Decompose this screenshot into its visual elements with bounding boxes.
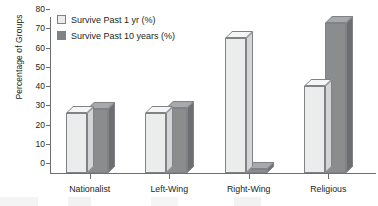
legend-item-survive-1yr: Survive Past 1 yr (%) <box>57 13 175 26</box>
x-axis-line <box>50 173 376 174</box>
bar-front-face <box>66 113 87 173</box>
x-tick-mark <box>328 174 329 179</box>
bar-nationalist-series1 <box>66 113 87 173</box>
bar-side-face <box>246 31 253 173</box>
bar-chart: Percentage of Groups 01020304050607080 N… <box>0 0 378 206</box>
y-tick-label: 80 <box>36 4 50 14</box>
bar-side-face <box>325 80 332 173</box>
bar-religious-series1 <box>304 86 325 173</box>
bar-side-face <box>166 107 173 173</box>
legend-swatch-icon-series2 <box>57 31 66 40</box>
bar-left-wing-series1 <box>145 113 166 173</box>
legend-item-survive-10yr: Survive Past 10 years (%) <box>57 29 175 42</box>
x-axis-label-left-wing: Left-Wing <box>150 184 188 194</box>
bar-side-face <box>108 103 115 173</box>
y-tick-label: 40 <box>36 81 50 91</box>
y-tick-label: 50 <box>36 62 50 72</box>
scan-artifact <box>0 197 378 206</box>
bar-front-face <box>304 86 325 173</box>
x-tick-mark <box>249 174 250 179</box>
bar-side-face <box>346 16 353 173</box>
bar-front-face <box>225 38 246 173</box>
x-tick-mark <box>169 174 170 179</box>
y-tick-label: 10 <box>36 139 50 149</box>
legend: Survive Past 1 yr (%) Survive Past 10 ye… <box>57 13 175 45</box>
x-axis-label-religious: Religious <box>310 184 346 194</box>
legend-swatch-icon-series1 <box>57 15 66 24</box>
y-tick-label: 0 <box>40 158 50 168</box>
bar-front-face <box>145 113 166 173</box>
bar-side-face <box>187 101 194 173</box>
x-tick-mark <box>90 174 91 179</box>
y-tick-label: 60 <box>36 43 50 53</box>
legend-label-series2: Survive Past 10 years (%) <box>71 31 175 41</box>
y-tick-label: 70 <box>36 23 50 33</box>
y-tick-label: 30 <box>36 100 50 110</box>
x-axis-label-right-wing: Right-Wing <box>227 184 271 194</box>
bar-side-face <box>87 107 94 173</box>
y-axis-line <box>50 17 51 174</box>
bar-right-wing-series1 <box>225 38 246 173</box>
legend-label-series1: Survive Past 1 yr (%) <box>71 15 156 25</box>
y-tick-label: 20 <box>36 120 50 130</box>
y-axis-title: Percentage of Groups <box>14 0 24 132</box>
x-axis-label-nationalist: Nationalist <box>69 184 110 194</box>
